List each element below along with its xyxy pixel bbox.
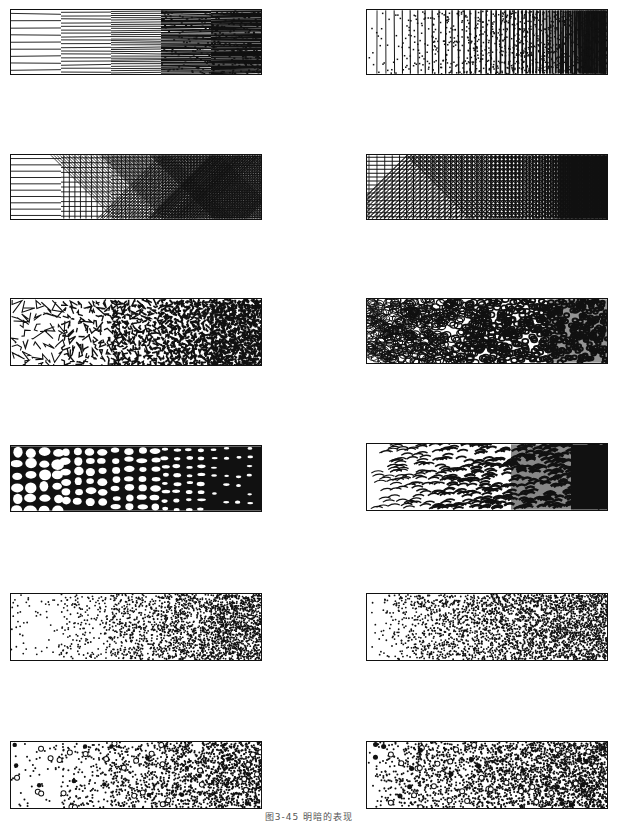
swatch-horizontal-lines-stepped [10, 9, 262, 75]
hatching-pattern [367, 594, 607, 660]
hatching-pattern [11, 155, 261, 219]
hatching-pattern [11, 446, 261, 511]
swatch-round-cells-continuous [366, 298, 608, 364]
hatching-pattern [11, 594, 261, 660]
swatch-stipple-dots-stepped [10, 593, 262, 661]
hatching-pattern [11, 10, 261, 74]
swatch-angular-cells-stepped [10, 298, 262, 366]
hatching-pattern [367, 444, 607, 510]
hatching-pattern [367, 299, 607, 363]
hatching-pattern [11, 742, 261, 808]
swatch-dots-circles-continuous [366, 741, 608, 809]
figure-caption: 图3-45 明暗的表现 [0, 810, 618, 823]
swatch-cross-hatch-stepped [10, 154, 262, 220]
swatch-vertical-lines-continuous [366, 9, 608, 75]
swatch-dots-circles-stepped [10, 741, 262, 809]
swatch-scale-strokes-continuous [366, 443, 608, 511]
hatching-pattern [367, 155, 607, 219]
swatch-stipple-dots-continuous [366, 593, 608, 661]
hatching-pattern [11, 299, 261, 365]
swatch-cross-hatch-continuous [366, 154, 608, 220]
swatch-pebble-stones-stepped [10, 445, 262, 512]
hatching-pattern [367, 10, 607, 74]
hatching-pattern [367, 742, 607, 808]
